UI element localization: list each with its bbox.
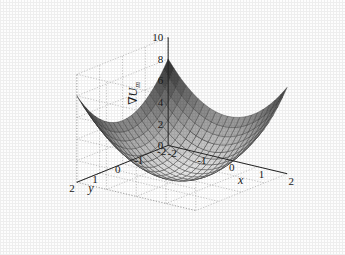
tick-label: -2 xyxy=(157,145,166,157)
tick-label: -1 xyxy=(134,154,143,166)
x-axis-title: x xyxy=(237,173,244,187)
tick-label: 0 xyxy=(115,163,121,175)
tick-label: 6 xyxy=(158,74,164,86)
tick-label: 2 xyxy=(158,118,164,130)
tick-label: 1 xyxy=(259,168,265,180)
tick-label: -1 xyxy=(197,154,206,166)
tick-label: 10 xyxy=(152,31,164,43)
surface-plot-figure: 0246810210-1-2-2-1012yx∇Um xyxy=(0,0,345,255)
tick-label: 8 xyxy=(158,53,164,65)
tick-label: 2 xyxy=(288,175,294,187)
plot-svg: 0246810210-1-2-2-1012yx∇Um xyxy=(0,0,345,255)
y-axis-title: y xyxy=(87,181,94,195)
tick-label: 4 xyxy=(158,96,164,108)
tick-label: 2 xyxy=(69,182,75,194)
tick-label: -2 xyxy=(168,147,177,159)
tick-label: 0 xyxy=(229,161,235,173)
